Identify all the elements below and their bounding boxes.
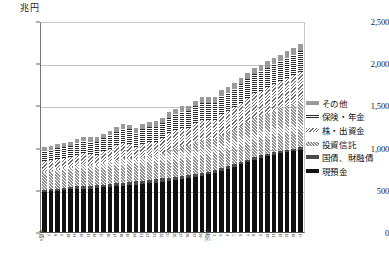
bar-segment-ins xyxy=(101,138,106,151)
bar xyxy=(49,146,54,232)
bar-segment-cash xyxy=(173,180,178,232)
x-axis-tick-label: 16 xyxy=(107,234,112,278)
legend-swatch-stock-icon xyxy=(306,128,319,132)
bar xyxy=(219,90,224,232)
bar-segment-trust xyxy=(81,165,86,186)
legend-swatch-other-icon xyxy=(306,101,319,105)
x-axis-tick-label: 3 xyxy=(220,234,225,278)
plot-area xyxy=(40,22,305,233)
bar-segment-cash xyxy=(95,188,100,232)
bar-segment-cash xyxy=(206,174,211,232)
bar-segment-cash xyxy=(186,178,191,232)
x-axis-tick-label: 平成6 xyxy=(41,234,46,278)
bar xyxy=(173,109,178,232)
bar-segment-cash xyxy=(298,150,303,232)
bar-segment-stock xyxy=(285,78,290,106)
bar-segment-ins xyxy=(259,71,264,90)
bar-segment-stock xyxy=(259,91,264,116)
legend-item-bond: 国債、財融債 xyxy=(306,150,389,164)
legend-item-ins: 保険・年金 xyxy=(306,110,389,124)
bar-segment-cash xyxy=(200,176,205,232)
bar-segment-trust xyxy=(193,142,198,173)
bar-segment-stock xyxy=(127,144,132,158)
bar-segment-trust xyxy=(49,171,54,190)
bar-segment-cash xyxy=(160,182,165,232)
bar-segment-trust xyxy=(55,169,60,188)
bar xyxy=(160,118,165,232)
bar-segment-stock xyxy=(62,158,67,168)
x-axis-tick-label: 25 xyxy=(167,234,172,278)
bar-segment-stock xyxy=(108,149,113,162)
bar xyxy=(75,139,80,232)
x-axis-tick-label: 11 xyxy=(74,234,79,278)
bar-segment-cash xyxy=(167,181,172,232)
bar-segment-cash xyxy=(245,162,250,232)
bar xyxy=(134,128,139,232)
bar-segment-ins xyxy=(245,79,250,98)
bar-segment-stock xyxy=(200,120,205,140)
bar-segment-stock xyxy=(88,154,93,165)
bar-segment-trust xyxy=(114,160,119,184)
bar-segment-stock xyxy=(95,155,100,165)
bar-segment-ins xyxy=(121,129,126,143)
bar-segment-trust xyxy=(298,101,303,147)
bar xyxy=(239,78,244,232)
bar-segment-stock xyxy=(291,75,296,104)
bar-segment-stock xyxy=(173,130,178,147)
bar-segment-stock xyxy=(298,72,303,101)
bar-segment-cash xyxy=(101,187,106,232)
legend-label: 現預金 xyxy=(322,165,348,177)
bar-segment-stock xyxy=(239,103,244,126)
bar-segment-cash xyxy=(127,185,132,232)
x-axis-tick-label: 24 xyxy=(160,234,165,278)
bar xyxy=(272,58,277,232)
chart-legend: その他保険・年金株・出資金投資信託国債、財融債現預金 xyxy=(306,96,389,178)
bar xyxy=(101,134,106,232)
legend-item-trust: 投資信託 xyxy=(306,137,389,151)
bar-segment-cash xyxy=(232,167,237,232)
bar-segment-other xyxy=(291,48,296,55)
bar-segment-ins xyxy=(193,106,198,123)
bar xyxy=(81,137,86,232)
x-axis-tick-label: 8 xyxy=(253,234,258,278)
x-axis-tick-label: 4 xyxy=(227,234,232,278)
bar xyxy=(245,73,250,232)
bar-segment-ins xyxy=(252,74,257,93)
bar-segment-other xyxy=(278,55,283,62)
bar-segment-ins xyxy=(232,89,237,107)
bar-segment-cash xyxy=(239,164,244,232)
bar-segment-cash xyxy=(278,153,283,232)
bar-segment-stock xyxy=(42,161,47,171)
bar xyxy=(226,87,231,232)
bar xyxy=(232,83,237,232)
bar xyxy=(55,144,60,232)
bar-segment-cash xyxy=(140,184,145,232)
bar-segment-ins xyxy=(173,114,178,130)
bar-segment-trust xyxy=(206,139,211,171)
y-axis-tick-label: 2,000 xyxy=(351,59,389,69)
bar xyxy=(140,124,145,232)
bar-segment-trust xyxy=(68,167,73,187)
bar-segment-cash xyxy=(68,189,73,232)
x-axis-tick-label: 7 xyxy=(48,234,53,278)
bar-segment-ins xyxy=(298,51,303,72)
bar-segment-cash xyxy=(42,192,47,233)
bar-segment-cash xyxy=(252,160,257,232)
bar-segment-cash xyxy=(108,187,113,232)
bar xyxy=(180,106,185,232)
bar-segment-stock xyxy=(75,155,80,166)
bar-segment-cash xyxy=(265,156,270,232)
legend-swatch-ins-icon xyxy=(306,114,319,118)
bar-segment-ins xyxy=(95,142,100,155)
bar xyxy=(193,101,198,232)
bar-segment-ins xyxy=(285,58,290,78)
bar-segment-ins xyxy=(167,118,172,134)
y-axis-unit-label: 兆円 xyxy=(20,1,39,14)
bar-segment-ins xyxy=(265,68,270,87)
bar-segment-stock xyxy=(140,144,145,157)
bar-segment-cash xyxy=(219,171,224,232)
x-axis-tick-label: 13 xyxy=(286,234,291,278)
bar-segment-other xyxy=(298,44,303,51)
x-axis-tick-label: 9 xyxy=(260,234,265,278)
bar-segment-trust xyxy=(127,158,132,182)
